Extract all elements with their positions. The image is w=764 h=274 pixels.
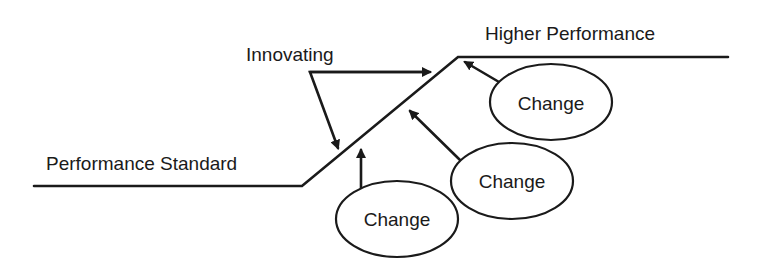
change-bubble-2: Change [451, 143, 573, 219]
performance-diagram: Change Change Change Innovating Higher P… [0, 0, 764, 274]
innovating-label: Innovating [246, 44, 334, 65]
change-arrow-2 [410, 111, 460, 160]
higher-performance-label: Higher Performance [485, 23, 655, 44]
change-bubble-3: Change [490, 64, 612, 140]
change-label: Change [518, 93, 585, 114]
performance-standard-label: Performance Standard [46, 153, 237, 174]
change-label: Change [364, 209, 431, 230]
change-bubble-1: Change [336, 181, 458, 257]
change-label: Change [479, 171, 546, 192]
change-arrow-3 [465, 62, 499, 82]
